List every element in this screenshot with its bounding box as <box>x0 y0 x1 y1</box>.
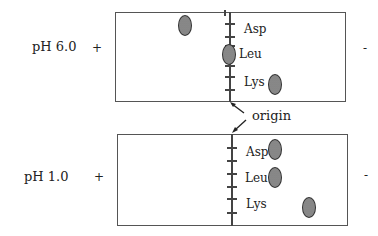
tick <box>225 23 235 25</box>
amino-acid-label-asp-top: Asp <box>244 23 267 36</box>
amino-acid-label-lys-bottom: Lys <box>246 198 267 211</box>
cathode-sign-bottom: - <box>364 169 368 181</box>
spot-lys-bottom <box>302 197 316 218</box>
spot-asp-top <box>178 15 192 36</box>
anode-sign-bottom: + <box>94 171 104 183</box>
origin-arrow-down-icon <box>230 118 250 134</box>
tick <box>227 198 237 200</box>
tick <box>227 173 237 175</box>
amino-acid-label-leu-bottom: Leu <box>245 172 268 185</box>
origin-mark-top <box>224 10 226 16</box>
amino-acid-label-lys-top: Lys <box>244 76 265 89</box>
tick <box>225 65 235 67</box>
origin-label: origin <box>252 109 291 123</box>
amino-acid-label-asp-bottom: Asp <box>246 146 269 159</box>
ph-label-bottom: pH 1.0 <box>24 170 68 184</box>
cathode-sign-top: - <box>363 42 367 54</box>
spot-lys-top <box>268 74 282 95</box>
spot-leu-bottom <box>268 167 282 188</box>
tick <box>225 89 235 91</box>
anode-sign-top: + <box>92 42 102 54</box>
tick <box>227 186 237 188</box>
tick <box>227 160 237 162</box>
tick <box>227 212 237 214</box>
origin-arrow-up-icon <box>228 101 248 115</box>
spot-leu-top <box>222 44 236 65</box>
amino-acid-label-leu-top: Leu <box>239 48 262 61</box>
ph-label-top: pH 6.0 <box>32 40 76 54</box>
spot-asp-bottom <box>268 139 282 160</box>
tick <box>225 76 235 78</box>
tick <box>225 36 235 38</box>
tick <box>227 147 237 149</box>
